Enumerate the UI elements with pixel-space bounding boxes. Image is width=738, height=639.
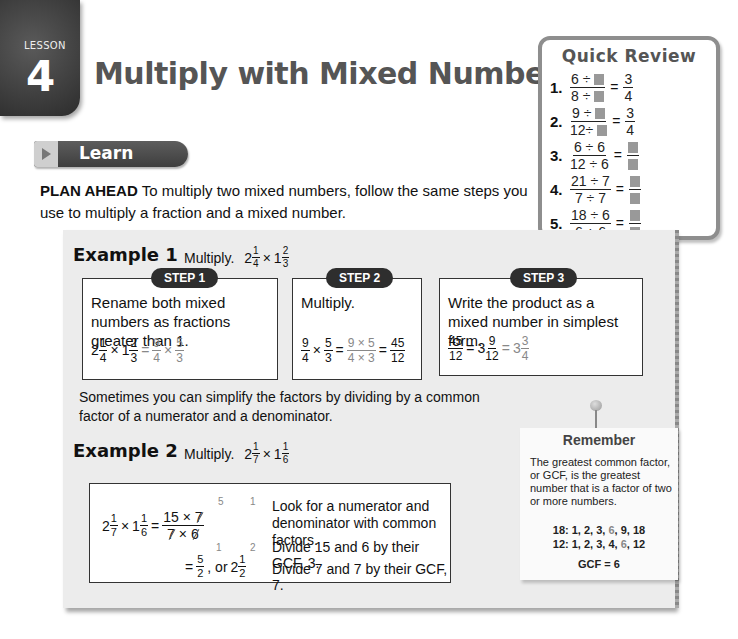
equals-sign: = bbox=[616, 181, 624, 197]
factor: 6 bbox=[608, 524, 614, 536]
struck-factor: 6 bbox=[191, 527, 199, 541]
or-text: , or bbox=[207, 559, 227, 575]
denominator: 4 bbox=[302, 351, 309, 364]
remember-body: The greatest common factor, or GCF, is t… bbox=[530, 456, 672, 508]
rhs-fraction: 34 bbox=[625, 106, 635, 137]
simplify-note: Sometimes you can simplify the factors b… bbox=[79, 388, 499, 426]
fraction: 52 bbox=[196, 554, 204, 579]
whole: 2 bbox=[231, 559, 239, 575]
value: 12÷ bbox=[570, 122, 593, 138]
equals-sign: = bbox=[466, 339, 474, 358]
fraction: 53 bbox=[175, 337, 184, 364]
denominator: 6 bbox=[283, 454, 289, 465]
equals-sign: = bbox=[141, 341, 149, 360]
fraction: 23 bbox=[282, 246, 290, 269]
cancel-above-b: 1 bbox=[250, 496, 256, 507]
example-1-prompt: Multiply. 2 14 × 1 23 bbox=[184, 246, 289, 269]
answer-blank[interactable] bbox=[595, 108, 605, 119]
equals-sign: = bbox=[610, 79, 618, 95]
fraction: 94 bbox=[301, 337, 310, 364]
quick-review-item: 1.6 ÷ 8 ÷ =34 bbox=[550, 70, 633, 104]
pushpin-stem bbox=[595, 410, 597, 428]
step-3-box: STEP 3 Write the product as a mixed numb… bbox=[439, 278, 643, 376]
fraction: 23 bbox=[129, 337, 138, 364]
whole: 3 bbox=[513, 339, 521, 358]
step-1-label: STEP 1 bbox=[151, 268, 218, 288]
item-number: 2. bbox=[550, 113, 570, 130]
rhs-fraction bbox=[629, 174, 641, 205]
answer-blank[interactable] bbox=[594, 91, 604, 102]
numerator bbox=[627, 140, 639, 156]
equals-sign: = bbox=[336, 341, 344, 360]
factors-12: 12: 1, 2, 3, 4, 6, 12 bbox=[520, 538, 678, 550]
step-2-math: 94 × 53 = 9 × 54 × 3 = 4512 bbox=[301, 337, 405, 364]
numerator: 18 ÷ 6 bbox=[570, 208, 611, 224]
times-sign: × bbox=[313, 341, 321, 360]
example-1-problem: 2 14 × 1 23 bbox=[244, 246, 289, 269]
denominator: 12 bbox=[449, 349, 462, 362]
fraction: 14 bbox=[252, 246, 260, 269]
step-2-label: STEP 2 bbox=[326, 268, 393, 288]
numerator: 1 bbox=[282, 442, 290, 454]
cancel-above-a: 5 bbox=[218, 496, 224, 507]
value: 4 bbox=[624, 88, 632, 104]
lhs-fraction: 21 ÷ 77 ÷ 7 bbox=[570, 174, 611, 205]
plan-ahead-paragraph: PLAN AHEAD To multiply two mixed numbers… bbox=[40, 180, 540, 224]
numerator: 3 bbox=[625, 106, 635, 122]
lesson-number: 4 bbox=[26, 54, 55, 100]
denominator bbox=[628, 156, 638, 171]
value: 9 ÷ bbox=[572, 105, 591, 121]
factor: 18 bbox=[633, 524, 645, 536]
numerator: 9 bbox=[488, 335, 497, 349]
item-number: 3. bbox=[550, 147, 570, 164]
answer-blank[interactable] bbox=[628, 142, 638, 153]
answer-blank[interactable] bbox=[630, 193, 640, 204]
numerator: 1 bbox=[99, 337, 108, 351]
numerator: 6 ÷ 6 bbox=[573, 140, 606, 156]
answer-blank[interactable] bbox=[628, 159, 638, 170]
remember-card: Remember The greatest common factor, or … bbox=[520, 428, 678, 580]
learn-label: Learn bbox=[79, 143, 133, 163]
fraction: 16 bbox=[140, 513, 148, 538]
denominator: 3 bbox=[176, 351, 183, 364]
numerator: 21 ÷ 7 bbox=[570, 174, 611, 190]
lhs-fraction: 6 ÷ 8 ÷ bbox=[570, 72, 605, 103]
fraction: 34 bbox=[521, 335, 530, 362]
numerator: 15 × 7 bbox=[162, 510, 203, 526]
quick-review-title: Quick Review bbox=[542, 46, 716, 66]
answer-blank[interactable] bbox=[597, 125, 607, 136]
quick-review-item: 4.21 ÷ 77 ÷ 7= bbox=[550, 172, 641, 206]
denominator: 4 bbox=[624, 88, 632, 103]
whole: 1 bbox=[132, 518, 140, 534]
denominator: 7 × 6 bbox=[167, 526, 199, 541]
denominator: 4 bbox=[522, 349, 529, 362]
denominator: 12 ÷ 6 bbox=[570, 156, 609, 171]
denominator: 3 bbox=[283, 258, 289, 269]
quick-review-box: Quick Review 1.6 ÷ 8 ÷ =342.9 ÷ 12÷ =343… bbox=[538, 36, 720, 240]
value: 4 bbox=[626, 122, 634, 138]
denominator: 7 ÷ 7 bbox=[575, 190, 606, 205]
value: 6 ÷ bbox=[571, 71, 590, 87]
answer-blank[interactable] bbox=[630, 210, 640, 221]
numerator: 9 bbox=[301, 337, 310, 351]
step-3-label: STEP 3 bbox=[510, 268, 577, 288]
answer-blank[interactable] bbox=[630, 176, 640, 187]
fraction: 4512 bbox=[448, 335, 463, 362]
denominator: 4 bbox=[253, 258, 259, 269]
example-1-heading: Example 1 bbox=[73, 244, 178, 265]
lhs-fraction: 9 ÷ 12÷ bbox=[570, 106, 607, 137]
plan-ahead-label: PLAN AHEAD bbox=[40, 182, 138, 199]
times-sign: × bbox=[110, 341, 118, 360]
fraction: 4512 bbox=[390, 337, 405, 364]
denominator: 7 bbox=[253, 454, 259, 465]
equals-sign: = bbox=[614, 147, 622, 163]
numerator: 2 bbox=[282, 246, 290, 258]
whole: 1 bbox=[274, 446, 282, 462]
example-2-expression: 2 17 × 1 16 = 15 × 7 7 × 6 bbox=[102, 510, 204, 541]
numerator: 1 bbox=[252, 442, 260, 454]
answer-blank[interactable] bbox=[594, 74, 604, 85]
denominator: 3 bbox=[325, 351, 332, 364]
whole: 2 bbox=[91, 341, 99, 360]
value: 3 bbox=[624, 71, 632, 87]
times-sign: × bbox=[121, 518, 129, 534]
